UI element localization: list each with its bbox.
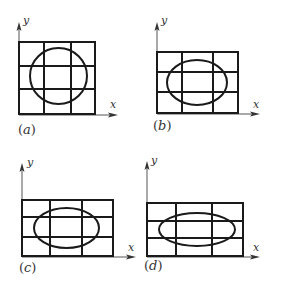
panel-d: y x (d) — [144, 154, 260, 273]
ellipse-shape — [167, 60, 227, 105]
x-axis-label: x — [110, 98, 117, 111]
panel-label-d: (d) — [144, 258, 162, 273]
y-axis-label: y — [160, 14, 168, 27]
y-axis-label: y — [26, 156, 34, 169]
panel-label-b: (b) — [153, 118, 171, 133]
panel-a: y x (a) — [17, 14, 119, 137]
x-axis-label: x — [128, 241, 135, 254]
ellipse-shape — [34, 208, 99, 248]
y-axis-label: y — [150, 154, 158, 167]
grid-frame — [147, 203, 243, 256]
panel-label-a: (a) — [18, 122, 36, 137]
y-axis-label: y — [22, 14, 30, 27]
ellipse-shape — [159, 213, 235, 246]
x-axis-label: x — [253, 98, 260, 111]
panel-b: y x (b) — [153, 14, 260, 133]
x-axis-label: x — [253, 241, 260, 254]
panel-label-c: (c) — [19, 260, 36, 275]
panel-c: y x (c) — [19, 156, 136, 275]
grid-frame — [157, 52, 238, 113]
diagram-canvas: y x (a) y x (b) y x — [0, 0, 284, 283]
circle-shape — [30, 48, 87, 104]
